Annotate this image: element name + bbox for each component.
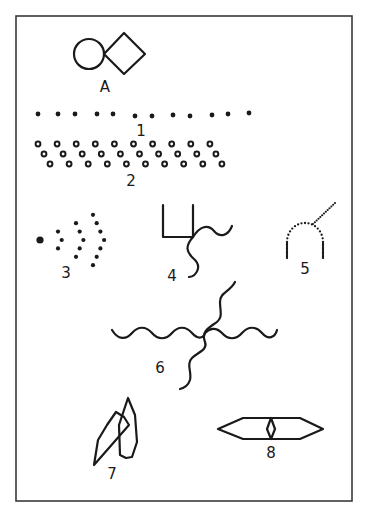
figure-2-label: 2 bbox=[126, 172, 136, 190]
figure-3-arc-dot bbox=[56, 246, 60, 250]
figure-2-ring bbox=[112, 142, 117, 147]
figure-5-arch-dot bbox=[307, 222, 309, 224]
figure-3-arc-dot bbox=[60, 238, 64, 242]
figure-5-arch-dot bbox=[304, 222, 306, 224]
figure-5-diagonal-dot bbox=[325, 211, 327, 213]
figure-2-ring bbox=[42, 152, 47, 157]
figure-3-arc-dot bbox=[98, 230, 102, 234]
figure-3-arc-dot bbox=[95, 255, 99, 259]
figure-3-arc-dot bbox=[74, 221, 78, 225]
figure-5-diagonal-dot bbox=[328, 207, 330, 209]
figure-5-arch-dot bbox=[320, 234, 322, 236]
figure-a: A bbox=[74, 33, 145, 96]
figure-5-diagonal-dot bbox=[327, 209, 329, 211]
figure-5-arch-dot bbox=[297, 223, 299, 225]
figure-5-arch-dot bbox=[291, 227, 293, 229]
figure-3: 3 bbox=[36, 213, 106, 282]
figure-5-arch-dot bbox=[319, 230, 321, 232]
figure-1-dot bbox=[150, 114, 155, 119]
figure-1-dot bbox=[95, 112, 100, 117]
figure-2-ring bbox=[156, 152, 161, 157]
figure-2-ring bbox=[36, 142, 41, 147]
figure-1-dot bbox=[188, 114, 193, 119]
figure-4: 4 bbox=[163, 205, 232, 285]
figure-7-label: 7 bbox=[107, 465, 117, 483]
figure-2-ring bbox=[80, 152, 85, 157]
figure-2-ring bbox=[118, 152, 123, 157]
figure-a-diamond bbox=[104, 33, 145, 74]
figure-1-dot bbox=[210, 113, 215, 118]
figure-1-dot bbox=[36, 112, 41, 117]
figure-6-horizontal-wave bbox=[112, 328, 277, 339]
figure-2-ring bbox=[188, 142, 193, 147]
figure-3-large-dot bbox=[36, 236, 43, 243]
figure-2-ring bbox=[55, 142, 60, 147]
figure-2-ring bbox=[137, 152, 142, 157]
figure-2-ring bbox=[105, 162, 110, 167]
figure-2-ring bbox=[99, 152, 104, 157]
figure-2-ring bbox=[214, 152, 219, 157]
figure-2-ring bbox=[124, 162, 129, 167]
figure-5-arch-dot bbox=[287, 234, 289, 236]
figure-2-ring bbox=[86, 162, 91, 167]
figure-5-diagonal-dot bbox=[317, 218, 319, 220]
figure-2-ring bbox=[181, 162, 186, 167]
figure-2-ring bbox=[208, 142, 213, 147]
figure-4-label: 4 bbox=[167, 267, 177, 285]
figure-1-dot bbox=[133, 114, 138, 119]
figure-2-ring bbox=[162, 162, 167, 167]
figure-3-arc-dot bbox=[81, 238, 85, 242]
figure-8-label: 8 bbox=[266, 444, 276, 462]
figure-a-label: A bbox=[100, 78, 111, 96]
figure-3-label: 3 bbox=[61, 264, 71, 282]
figure-2-ring bbox=[61, 152, 66, 157]
figure-3-arc-dot bbox=[102, 238, 106, 242]
figure-5-arch-dot bbox=[286, 257, 288, 259]
figure-2-ring bbox=[67, 162, 72, 167]
figure-5-diagonal-dot bbox=[330, 205, 332, 207]
figure-5-diagonal-dot bbox=[332, 204, 334, 206]
figure-4-bracket bbox=[163, 205, 193, 237]
figure-1-dot bbox=[111, 112, 116, 117]
figure-5-arch-dot bbox=[286, 237, 288, 239]
figure-5-arch-dot bbox=[289, 230, 291, 232]
figure-5-arch-dot bbox=[317, 227, 319, 229]
figure-1-dot bbox=[226, 112, 231, 117]
figure-2-ring bbox=[143, 162, 148, 167]
figure-2-ring bbox=[131, 142, 136, 147]
figure-2-ring bbox=[220, 162, 225, 167]
figure-1-dot bbox=[171, 113, 176, 118]
figure-5-diagonal-dot bbox=[321, 214, 323, 216]
figure-5-arch-dot bbox=[294, 225, 296, 227]
figure-5-diagonal-dot bbox=[334, 202, 336, 204]
figure-1-label: 1 bbox=[136, 122, 146, 140]
figure-5-arch-dot bbox=[322, 241, 324, 243]
figure-5-diagonal-dot bbox=[323, 212, 325, 214]
plate-frame bbox=[16, 16, 352, 501]
figure-5-diagonal-dot bbox=[316, 219, 318, 221]
figure-4-wave-right bbox=[193, 226, 232, 237]
figure-8: 8 bbox=[218, 418, 323, 462]
figure-3-arc-dot bbox=[56, 230, 60, 234]
figure-7: 7 bbox=[94, 398, 137, 483]
figure-a-circle bbox=[74, 39, 104, 69]
figure-2-ring bbox=[150, 142, 155, 147]
figure-3-arc-dot bbox=[91, 263, 95, 267]
figure-2-ring bbox=[74, 142, 79, 147]
figure-2-ring bbox=[48, 162, 53, 167]
figure-6-label: 6 bbox=[155, 359, 165, 377]
figure-2: 2 bbox=[36, 142, 225, 190]
figure-5-arch-dot bbox=[311, 223, 313, 225]
figure-3-arc-dot bbox=[98, 246, 102, 250]
figure-5-diagonal-dot bbox=[314, 221, 316, 223]
figure-1-dot bbox=[56, 112, 61, 117]
figure-3-arc-dot bbox=[95, 221, 99, 225]
figure-5: 5 bbox=[286, 202, 336, 278]
figure-5-arch-dot bbox=[322, 237, 324, 239]
figure-3-arc-dot bbox=[78, 246, 82, 250]
figure-3-arc-dot bbox=[78, 230, 82, 234]
figure-2-ring bbox=[175, 152, 180, 157]
figure-5-arch-dot bbox=[300, 222, 302, 224]
figure-3-arc-dot bbox=[74, 255, 78, 259]
figure-1-dot bbox=[73, 112, 78, 117]
